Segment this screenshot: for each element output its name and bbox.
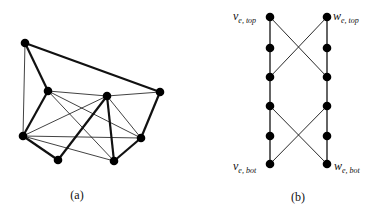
thin-edge: [23, 43, 25, 136]
right-node-2: [323, 73, 332, 82]
figure-b-gadget: [266, 13, 332, 169]
right-node-5: [323, 160, 332, 169]
left-node-4: [266, 132, 275, 141]
label-w-top: we, top: [333, 9, 359, 25]
left-node-0: [266, 13, 275, 22]
thick-edge: [114, 138, 141, 161]
thin-edge: [107, 96, 141, 138]
node-B: [44, 87, 53, 96]
node-H: [137, 134, 146, 143]
thin-edge: [23, 96, 107, 136]
node-D: [156, 88, 165, 97]
node-F: [54, 156, 63, 165]
thick-edge: [58, 96, 107, 160]
thin-edge: [23, 136, 114, 161]
left-node-3: [266, 102, 275, 111]
left-node-2: [266, 73, 275, 82]
node-E: [19, 132, 28, 141]
thick-edge: [107, 96, 114, 161]
label-w-bot: we, bot: [334, 159, 361, 175]
label-v-top: ve, top: [233, 9, 256, 25]
node-A: [21, 39, 30, 48]
thick-edge: [23, 136, 58, 160]
label-v-bot: ve, bot: [233, 159, 257, 175]
figure-a-graph: [19, 39, 165, 166]
thick-edge: [141, 92, 160, 138]
left-node-1: [266, 44, 275, 53]
caption-b: (b): [291, 190, 305, 204]
caption-a: (a): [70, 188, 83, 202]
graph-figure: (a) (b) ve, top we, top ve, bot we, bot: [0, 0, 374, 217]
thin-edge: [107, 92, 160, 96]
left-node-5: [266, 160, 275, 169]
right-node-0: [323, 13, 332, 22]
node-G: [110, 157, 119, 166]
thick-edge: [23, 91, 48, 136]
right-node-3: [323, 102, 332, 111]
right-node-4: [323, 132, 332, 141]
node-C: [103, 92, 112, 101]
thin-edge: [48, 91, 141, 138]
thin-edge: [23, 136, 141, 138]
right-node-1: [323, 44, 332, 53]
